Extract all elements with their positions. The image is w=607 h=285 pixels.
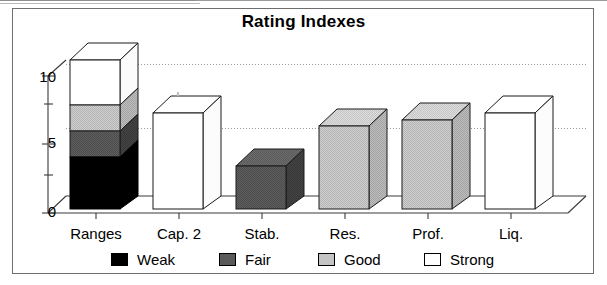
swatch-good-icon [318,253,335,266]
bar-prof-side [452,103,470,209]
bar-res-side [369,109,387,209]
bar-liq-side [535,96,553,209]
bar-prof-front [402,120,452,209]
bar-stab[interactable] [236,149,304,209]
legend-item-fair[interactable]: Fair [219,252,271,267]
legend-label-weak: Weak [137,252,175,267]
bar-ranges[interactable] [70,43,138,209]
scan-speck [177,92,179,96]
y-axis-label-0: 0 [26,203,56,220]
legend-label-good: Good [344,252,381,267]
swatch-fair-icon [219,253,236,266]
bar-stab-front [236,166,286,209]
swatch-strong-icon [424,253,441,266]
y-axis-label-5: 5 [26,134,56,151]
bar-cap-2-front [153,113,203,209]
bar-res-front [319,126,369,209]
bar-cap-2-side [203,96,221,209]
bar-liq[interactable] [485,96,553,209]
bar-ranges-segment-good-front [70,105,120,131]
bar-ranges-segment-fair-front [70,131,120,157]
bar-ranges-segment-strong-front [70,60,120,105]
bar-prof[interactable] [402,103,470,209]
x-axis-labels: Ranges Cap. 2 Stab. Res. Prof. Liq. [0,225,607,245]
swatch-weak-icon [111,253,128,266]
y-axis-label-10: 10 [26,68,56,85]
x-axis-ticks [96,213,511,219]
bar-res[interactable] [319,109,387,209]
bar-ranges-segment-weak-front [70,157,120,209]
legend-item-weak[interactable]: Weak [111,252,175,267]
legend-label-strong: Strong [450,252,494,267]
chart-page: Rating Indexes [0,0,607,285]
chart-legend: Weak Fair Good Strong [0,252,607,274]
x-axis-label-liq: Liq. [456,225,566,242]
legend-label-fair: Fair [245,252,271,267]
bar-cap-2[interactable] [153,96,221,209]
legend-item-strong[interactable]: Strong [424,252,494,267]
legend-item-good[interactable]: Good [318,252,381,267]
bar-liq-front [485,113,535,209]
